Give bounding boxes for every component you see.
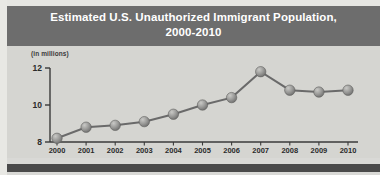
x-axis-tick-label: 2003	[129, 146, 159, 155]
x-axis-tick-label: 2006	[217, 146, 247, 155]
data-point-markers	[52, 67, 353, 144]
x-axis-tick-label: 2000	[42, 146, 72, 155]
y-axis-tick-label: 10	[22, 100, 42, 110]
y-axis-tick-label: 8	[22, 137, 42, 147]
x-axis-tick-label: 2010	[333, 146, 363, 155]
x-axis-tick-label: 2009	[304, 146, 334, 155]
x-axis-tick-label: 2008	[275, 146, 305, 155]
x-axis-tick-label: 2004	[158, 146, 188, 155]
x-axis-tick-label: 2002	[100, 146, 130, 155]
chart-figure: Estimated U.S. Unauthorized Immigrant Po…	[0, 0, 380, 175]
bottom-accent-bar	[7, 164, 380, 172]
x-axis-tick-label: 2001	[71, 146, 101, 155]
x-axis-tick-label: 2007	[246, 146, 276, 155]
y-axis-tick-label: 12	[22, 63, 42, 73]
x-axis-tick-label: 2005	[188, 146, 218, 155]
